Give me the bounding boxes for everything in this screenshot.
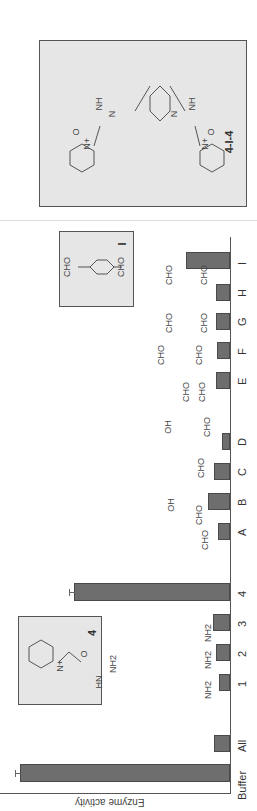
- category-label-I: I: [236, 262, 248, 265]
- struct-text-C: CHO: [197, 458, 207, 478]
- struct-text-A: CHO: [201, 530, 211, 550]
- inset-label-I: I: [116, 242, 128, 245]
- struct-text: NH: [188, 97, 198, 110]
- bar-D: [222, 433, 230, 450]
- struct-text: CHO: [63, 257, 73, 277]
- struct-text: N+: [201, 138, 211, 150]
- category-label-4: 4: [236, 591, 248, 597]
- struct-text: N+: [83, 138, 93, 150]
- category-label-2: 2: [236, 651, 248, 657]
- category-label-3: 3: [236, 621, 248, 627]
- struct-text-3: NH2: [204, 624, 214, 642]
- bar-3: [213, 614, 230, 631]
- struct-text: O: [207, 128, 217, 135]
- struct-text-G: CHO: [165, 313, 175, 333]
- struct-text-F: CHO: [195, 345, 205, 365]
- error-cap-4: [69, 589, 70, 596]
- inset-I: CHO CHO I: [59, 231, 134, 307]
- bar-All: [214, 735, 230, 752]
- bar-B: [208, 493, 230, 510]
- category-axis: [230, 237, 231, 794]
- struct-text: O: [80, 650, 90, 657]
- struct-text: NH: [95, 97, 105, 110]
- struct-text-D: OH: [164, 420, 174, 434]
- struct-text: O: [72, 128, 82, 135]
- struct-text-E: CHO: [198, 382, 208, 402]
- y-axis-label: Enzyme activity: [75, 797, 144, 808]
- inset-label-4-I-4: 4-I-4: [223, 131, 235, 154]
- struct-text-B: CHO: [195, 505, 205, 525]
- struct-text-G: CHO: [200, 313, 210, 333]
- category-label-G: G: [236, 317, 248, 326]
- category-label-Buffer: Buffer: [236, 771, 248, 800]
- struct-text-B: OH: [167, 498, 177, 512]
- category-label-D: D: [236, 438, 248, 446]
- struct-text: N: [170, 111, 180, 118]
- struct-text-H: CHO: [200, 265, 210, 285]
- inset-4-I-4: NH N O N+ NH N O N+ 4-I-4: [39, 40, 247, 207]
- category-label-1: 1: [236, 681, 248, 687]
- category-label-A: A: [236, 529, 248, 536]
- panel-separator: [0, 220, 257, 221]
- inset-4: N+ O HN NH2 4: [18, 616, 102, 705]
- struct-text-H: CHO: [165, 265, 175, 285]
- struct-text-2: NH2: [204, 651, 214, 669]
- bar-E: [216, 372, 230, 389]
- category-label-C: C: [236, 468, 248, 476]
- bar-Buffer: [20, 764, 230, 782]
- category-label-F: F: [236, 348, 248, 355]
- bar-C: [214, 463, 230, 480]
- struct-text-E: CHO: [182, 382, 192, 402]
- bar-H: [216, 284, 230, 301]
- struct-text: N: [108, 111, 118, 118]
- category-label-All: All: [236, 740, 248, 752]
- error-cap-Buffer: [15, 770, 16, 777]
- category-label-B: B: [236, 499, 248, 506]
- bar-A: [218, 523, 230, 540]
- value-axis: [0, 793, 231, 794]
- struct-text-F: CHO: [157, 345, 167, 365]
- bar-F: [217, 342, 230, 359]
- struct-text: CHO: [117, 257, 127, 277]
- struct-text: N+: [56, 660, 66, 672]
- category-label-E: E: [236, 378, 248, 385]
- bar-2: [216, 644, 230, 661]
- inset-label-4: 4: [86, 630, 98, 636]
- struct-text-1: NH2: [204, 681, 214, 699]
- struct-text: NH2: [109, 655, 119, 673]
- category-label-H: H: [236, 289, 248, 297]
- bar-4: [74, 583, 230, 601]
- struct-text-D: CHO: [203, 417, 213, 437]
- bar-G: [216, 313, 230, 330]
- bar-1: [219, 674, 230, 691]
- structure-4-I-4: [40, 41, 248, 208]
- struct-text: HN: [95, 675, 105, 688]
